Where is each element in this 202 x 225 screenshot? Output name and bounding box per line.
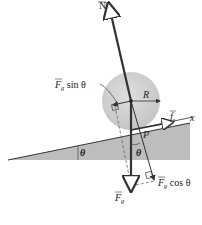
- dashed-projection-2: [131, 181, 155, 186]
- right-angle-mark-2: [145, 171, 152, 178]
- rolling-ball-incline-diagram: N Fg sin θ R fs x P θ θ Fg cos θ Fg: [0, 0, 202, 225]
- friction-label: fs: [170, 111, 176, 123]
- gravity-label: Fg: [114, 192, 125, 204]
- incline-angle-label: θ: [80, 147, 86, 158]
- contact-point-label: P: [142, 129, 149, 140]
- gravity-sin-label: Fg sin θ: [54, 79, 86, 91]
- radius-label: R: [142, 89, 149, 100]
- normal-force-label: N: [99, 0, 106, 11]
- ball-center: [129, 99, 133, 103]
- vertical-angle-label: θ: [136, 147, 142, 158]
- gravity-cos-label: Fg cos θ: [157, 177, 191, 189]
- x-axis-label: x: [189, 112, 195, 123]
